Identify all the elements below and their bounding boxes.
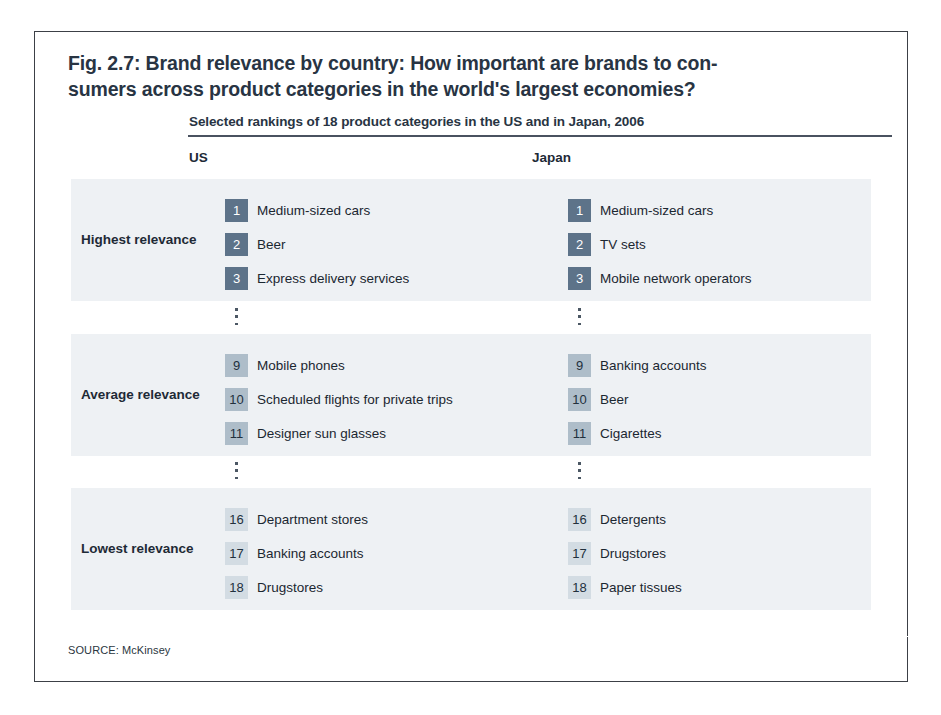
table-row: 2 TV sets bbox=[568, 233, 646, 255]
vertical-ellipsis-icon bbox=[568, 462, 591, 479]
rank-badge: 16 bbox=[568, 508, 591, 531]
category-label: TV sets bbox=[600, 237, 646, 252]
rank-badge: 10 bbox=[568, 388, 591, 411]
group-highest-column-japan: 1 Medium-sized cars 2 TV sets 3 Mobile n… bbox=[568, 179, 868, 301]
relevance-group-highest: Highest relevance 1 Medium-sized cars 2 … bbox=[71, 179, 871, 301]
table-row: 11 Designer sun glasses bbox=[225, 422, 386, 444]
category-label: Drugstores bbox=[257, 580, 323, 595]
source-note: SOURCE: McKinsey bbox=[68, 644, 170, 656]
group-average-column-us: 9 Mobile phones 10 Scheduled flights for… bbox=[225, 334, 565, 456]
table-row: 1 Medium-sized cars bbox=[568, 199, 713, 221]
group-lowest-column-japan: 16 Detergents 17 Drugstores 18 Paper tis… bbox=[568, 488, 868, 610]
vertical-ellipsis-icon bbox=[568, 308, 591, 325]
vertical-ellipsis-icon bbox=[225, 308, 248, 325]
rank-badge: 1 bbox=[568, 199, 591, 222]
rank-badge: 17 bbox=[225, 542, 248, 565]
group-label-average: Average relevance bbox=[81, 387, 200, 403]
relevance-group-average: Average relevance 9 Mobile phones 10 Sch… bbox=[71, 334, 871, 456]
category-label: Banking accounts bbox=[257, 546, 364, 561]
category-label: Scheduled flights for private trips bbox=[257, 392, 453, 407]
category-label: Beer bbox=[600, 392, 629, 407]
group-average-column-japan: 9 Banking accounts 10 Beer 11 Cigarettes bbox=[568, 334, 868, 456]
table-row: 1 Medium-sized cars bbox=[225, 199, 370, 221]
source-divider bbox=[35, 636, 909, 637]
table-row: 17 Banking accounts bbox=[225, 542, 364, 564]
figure-frame: Fig. 2.7: Brand relevance by country: Ho… bbox=[34, 31, 908, 682]
rank-badge: 3 bbox=[225, 267, 248, 290]
rank-badge: 2 bbox=[225, 233, 248, 256]
rank-badge: 9 bbox=[568, 354, 591, 377]
table-row: 16 Department stores bbox=[225, 508, 368, 530]
table-row: 16 Detergents bbox=[568, 508, 666, 530]
category-label: Medium-sized cars bbox=[600, 203, 713, 218]
table-row: 17 Drugstores bbox=[568, 542, 666, 564]
rank-badge: 17 bbox=[568, 542, 591, 565]
vertical-ellipsis-icon bbox=[225, 462, 248, 479]
rank-badge: 11 bbox=[225, 422, 248, 445]
category-label: Banking accounts bbox=[600, 358, 707, 373]
rank-badge: 10 bbox=[225, 388, 248, 411]
rank-badge: 16 bbox=[225, 508, 248, 531]
group-highest-column-us: 1 Medium-sized cars 2 Beer 3 Express del… bbox=[225, 179, 565, 301]
table-row: 9 Banking accounts bbox=[568, 354, 707, 376]
rank-badge: 9 bbox=[225, 354, 248, 377]
table-row: 9 Mobile phones bbox=[225, 354, 345, 376]
table-row: 18 Drugstores bbox=[225, 576, 323, 598]
table-row: 3 Express delivery services bbox=[225, 267, 409, 289]
rank-badge: 3 bbox=[568, 267, 591, 290]
group-label-lowest: Lowest relevance bbox=[81, 541, 194, 557]
rank-badge: 18 bbox=[225, 576, 248, 599]
category-label: Paper tissues bbox=[600, 580, 682, 595]
table-row: 18 Paper tissues bbox=[568, 576, 682, 598]
table-row: 11 Cigarettes bbox=[568, 422, 662, 444]
category-label: Express delivery services bbox=[257, 271, 409, 286]
category-label: Beer bbox=[257, 237, 286, 252]
category-label: Department stores bbox=[257, 512, 368, 527]
rank-badge: 1 bbox=[225, 199, 248, 222]
category-label: Designer sun glasses bbox=[257, 426, 386, 441]
rank-badge: 11 bbox=[568, 422, 591, 445]
table-row: 2 Beer bbox=[225, 233, 286, 255]
rank-badge: 18 bbox=[568, 576, 591, 599]
category-label: Mobile network operators bbox=[600, 271, 752, 286]
rankings-table: Highest relevance 1 Medium-sized cars 2 … bbox=[35, 32, 909, 683]
category-label: Cigarettes bbox=[600, 426, 662, 441]
category-label: Drugstores bbox=[600, 546, 666, 561]
category-label: Detergents bbox=[600, 512, 666, 527]
category-label: Medium-sized cars bbox=[257, 203, 370, 218]
category-label: Mobile phones bbox=[257, 358, 345, 373]
table-row: 3 Mobile network operators bbox=[568, 267, 752, 289]
table-row: 10 Beer bbox=[568, 388, 629, 410]
group-label-highest: Highest relevance bbox=[81, 232, 197, 248]
group-lowest-column-us: 16 Department stores 17 Banking accounts… bbox=[225, 488, 565, 610]
relevance-group-lowest: Lowest relevance 16 Department stores 17… bbox=[71, 488, 871, 610]
table-row: 10 Scheduled flights for private trips bbox=[225, 388, 453, 410]
rank-badge: 2 bbox=[568, 233, 591, 256]
